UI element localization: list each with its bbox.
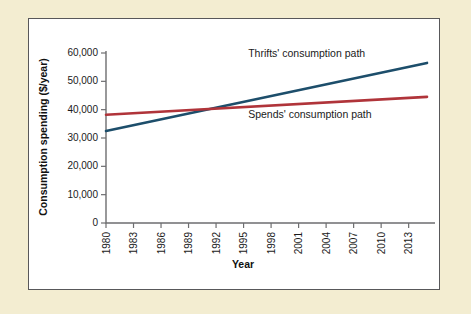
x-tick-label: 1998 (266, 232, 277, 255)
y-tick-label: 60,000 (67, 47, 98, 58)
series-annotation: Spends' consumption path (248, 108, 372, 120)
y-axis-title: Consumption spending ($/year) (37, 58, 49, 216)
x-tick-label: 2004 (321, 232, 332, 255)
x-tick-group: 1980198319861989199219951998200120042007… (101, 223, 415, 254)
series-group (106, 63, 427, 131)
y-tick-label: 30,000 (67, 132, 98, 143)
y-tick-label: 50,000 (67, 75, 98, 86)
x-tick-label: 1980 (101, 232, 112, 255)
figure-frame: 010,00020,00030,00040,00050,00060,000 19… (28, 18, 440, 290)
x-tick-label: 1992 (211, 232, 222, 255)
x-tick-label: 1995 (238, 232, 249, 255)
x-tick-label: 1986 (156, 232, 167, 255)
y-tick-label: 10,000 (67, 189, 98, 200)
series-line-thrifts--consumption-path (106, 63, 427, 131)
annotation-group: Thrifts' consumption pathSpends' consump… (248, 47, 372, 120)
y-tick-label: 20,000 (67, 160, 98, 171)
series-annotation: Thrifts' consumption path (248, 47, 365, 59)
axes-group (106, 51, 435, 223)
x-tick-label: 2010 (376, 232, 387, 255)
axis-spine (106, 51, 435, 223)
y-tick-label: 0 (92, 217, 98, 228)
x-axis-title: Year (232, 258, 254, 270)
consumption-paths-chart: 010,00020,00030,00040,00050,00060,000 19… (29, 19, 438, 288)
x-tick-label: 2007 (348, 232, 359, 255)
y-tick-group: 010,00020,00030,00040,00050,00060,000 (67, 47, 106, 228)
x-tick-label: 1989 (183, 232, 194, 255)
y-tick-label: 40,000 (67, 104, 98, 115)
x-tick-label: 2013 (403, 232, 414, 255)
x-tick-label: 2001 (293, 232, 304, 255)
x-tick-label: 1983 (128, 232, 139, 255)
